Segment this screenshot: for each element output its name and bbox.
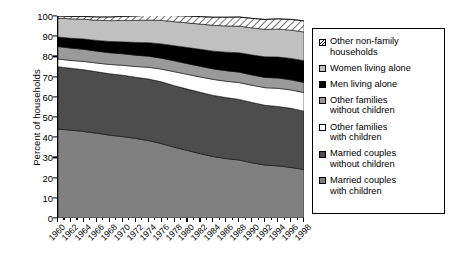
x-tick-mark <box>251 218 252 222</box>
y-tick-mark <box>53 197 57 198</box>
x-tick-mark <box>109 218 110 222</box>
y-tick-label: 20 <box>42 172 53 183</box>
y-tick-mark <box>53 36 57 37</box>
x-tick-mark <box>245 218 246 220</box>
y-tick-mark <box>53 177 57 178</box>
x-tick-mark <box>122 218 123 222</box>
legend-item[interactable]: Married couples without children <box>319 148 439 169</box>
legend-item[interactable]: Other families without children <box>319 95 439 116</box>
y-tick-label: 60 <box>42 91 53 102</box>
legend-item[interactable]: Other non-family households <box>319 36 439 57</box>
x-tick-mark <box>180 218 181 220</box>
x-tick-mark <box>154 218 155 220</box>
y-tick-label: 50 <box>42 112 53 123</box>
x-tick-mark <box>264 218 265 222</box>
x-tick-mark <box>102 218 103 220</box>
x-tick-mark <box>277 218 278 222</box>
x-tick-mark <box>83 218 84 222</box>
x-tick-mark <box>232 218 233 220</box>
x-tick-mark <box>76 218 77 220</box>
y-tick-mark <box>53 56 57 57</box>
y-tick-label: 10 <box>42 192 53 203</box>
x-tick-mark <box>57 218 58 222</box>
x-tick-mark <box>89 218 90 220</box>
legend-label: Other families without children <box>330 95 395 116</box>
x-tick-mark <box>284 218 285 220</box>
y-tick-label: 80 <box>42 51 53 62</box>
y-tick-label: 90 <box>42 31 53 42</box>
x-tick-mark <box>96 218 97 222</box>
y-tick-mark <box>53 96 57 97</box>
x-tick-mark <box>63 218 64 220</box>
x-tick-mark <box>303 218 304 222</box>
x-tick-mark <box>258 218 259 220</box>
y-tick-label: 100 <box>37 11 53 22</box>
x-tick-mark <box>290 218 291 222</box>
legend-swatch-icon <box>319 39 326 46</box>
x-tick-mark <box>219 218 220 220</box>
legend-swatch-icon <box>319 177 326 184</box>
x-tick-mark <box>161 218 162 222</box>
x-tick-mark <box>148 218 149 222</box>
y-tick-label: 40 <box>42 132 53 143</box>
chart-legend: Other non-family householdsWomen living … <box>312 28 445 214</box>
y-tick-mark <box>53 76 57 77</box>
legend-swatch-icon <box>319 151 326 158</box>
x-tick-mark <box>115 218 116 220</box>
x-tick-mark <box>141 218 142 220</box>
y-tick-label: 30 <box>42 152 53 163</box>
legend-label: Married couples without children <box>330 148 396 169</box>
legend-label: Married couples with children <box>330 175 396 196</box>
x-tick-mark <box>225 218 226 222</box>
x-tick-mark <box>206 218 207 220</box>
y-tick-mark <box>53 116 57 117</box>
x-tick-mark <box>271 218 272 220</box>
legend-item[interactable]: Married couples with children <box>319 175 439 196</box>
y-tick-mark <box>53 137 57 138</box>
plot-canvas <box>57 16 303 218</box>
x-tick-mark <box>174 218 175 222</box>
legend-item[interactable]: Women living alone <box>319 63 439 74</box>
legend-label: Men living alone <box>330 79 397 90</box>
y-axis-title: Percent of households <box>31 38 42 198</box>
x-tick-mark <box>186 218 187 222</box>
x-tick-mark <box>238 218 239 222</box>
legend-swatch-icon <box>319 81 326 88</box>
x-tick-mark <box>199 218 200 222</box>
legend-swatch-icon <box>319 97 326 104</box>
y-tick-mark <box>53 157 57 158</box>
x-tick-mark <box>135 218 136 222</box>
legend-item[interactable]: Men living alone <box>319 79 439 90</box>
x-tick-mark <box>128 218 129 220</box>
legend-label: Women living alone <box>330 63 411 74</box>
x-tick-mark <box>212 218 213 222</box>
x-tick-mark <box>167 218 168 220</box>
legend-swatch-icon <box>319 124 326 131</box>
chart-root: Percent of households 010203040506070809… <box>0 0 451 272</box>
x-tick-mark <box>193 218 194 220</box>
y-tick-label: 70 <box>42 71 53 82</box>
x-tick-mark <box>297 218 298 220</box>
legend-label: Other families with children <box>330 122 387 143</box>
plot-area: 0102030405060708090100 19601962196419661… <box>57 16 303 218</box>
y-tick-label: 0 <box>48 213 53 224</box>
legend-item[interactable]: Other families with children <box>319 122 439 143</box>
x-tick-mark <box>70 218 71 222</box>
legend-label: Other non-family households <box>330 36 399 57</box>
legend-swatch-icon <box>319 65 326 72</box>
y-tick-mark <box>53 15 57 16</box>
